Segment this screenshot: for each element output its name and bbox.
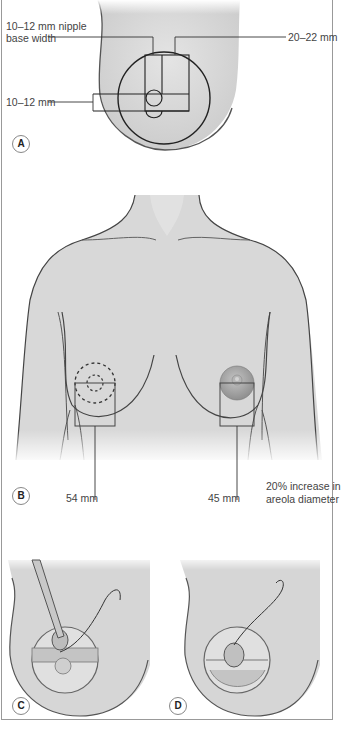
note-line1: 20% increase in bbox=[266, 480, 341, 493]
panel-d-badge: D bbox=[169, 697, 187, 715]
label-nipple-height: 10–12 mm bbox=[6, 96, 56, 109]
label-left-measure: 54 mm bbox=[66, 492, 98, 505]
label-areola-diameter: 20–22 mm bbox=[288, 31, 338, 44]
label-nipple-width-line2: base width bbox=[6, 32, 56, 45]
panel-d-breast bbox=[178, 556, 328, 716]
panel-b-torso bbox=[10, 195, 324, 500]
panel-c-breast bbox=[6, 556, 156, 716]
note-line2: areola diameter bbox=[266, 493, 339, 506]
panel-a-badge: A bbox=[12, 135, 30, 153]
panel-c-badge: C bbox=[12, 697, 30, 715]
label-right-measure: 45 mm bbox=[208, 492, 240, 505]
panel-b-badge: B bbox=[12, 487, 30, 505]
